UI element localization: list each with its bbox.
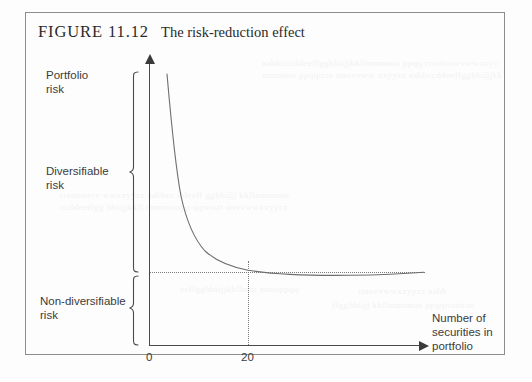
x-tick-label-20: 20 <box>241 351 254 363</box>
figure-number: FIGURE 11.12 <box>38 22 149 41</box>
x-axis <box>149 345 421 346</box>
y-axis-arrow-icon <box>145 54 155 64</box>
label-portfolio-risk: Portfolio risk <box>46 68 124 96</box>
asymptote-dotted-line <box>150 272 425 273</box>
x-axis-caption: Number of securities in portfolio <box>432 311 502 353</box>
x-axis-arrow-icon <box>419 341 429 351</box>
twenty-securities-dotted-line <box>248 261 249 345</box>
figure-caption: The risk-reduction effect <box>161 24 305 40</box>
y-axis <box>149 62 150 346</box>
figure-page: aabbcccddeeffgghhiijjkkllmmnnoo ppqq rrs… <box>0 0 532 382</box>
figure-title: FIGURE 11.12The risk-reduction effect <box>38 22 305 42</box>
x-tick-label-0: 0 <box>146 351 152 363</box>
label-non-diversifiable-risk: Non-diversifiable risk <box>40 294 136 322</box>
label-diversifiable-risk: Diversifiable risk <box>46 164 128 192</box>
